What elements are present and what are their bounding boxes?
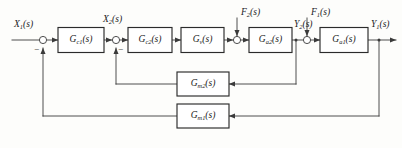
summing-junction-f2: [233, 36, 240, 43]
block-label-ga2: Ga2(s): [249, 35, 292, 45]
tap-dot-y2: [295, 39, 298, 42]
signal-label-y2: Y2(s): [294, 20, 313, 30]
diagram-vector-layer: [0, 0, 402, 148]
summing-junction-inner: [112, 36, 119, 43]
block-label-gm2: Gm2(s): [177, 79, 229, 89]
signal-label-x2: X2(s): [103, 15, 122, 25]
block-label-gc1: Gc1(s): [58, 35, 104, 45]
summing-junction-f1: [303, 36, 310, 43]
signal-label-y1: Y1(s): [371, 20, 390, 30]
tap-dot-y1: [378, 39, 381, 42]
block-label-ga1: Ga1(s): [320, 35, 368, 45]
signal-label-f1: F1(s): [311, 8, 330, 18]
sign-outer-feedback-negative: −: [34, 45, 39, 54]
block-label-gc2: Gc2(s): [128, 35, 172, 45]
summing-junction-outer: [39, 36, 46, 43]
signal-label-x1: X1(s): [14, 20, 33, 30]
block-label-gv: Gv(s): [181, 35, 224, 45]
signal-label-f2: F2(s): [241, 8, 260, 18]
sign-inner-feedback-negative: −: [118, 45, 123, 54]
block-diagram-canvas: Gc1(s) Gc2(s) Gv(s) Ga2(s) Ga1(s) Gm2(s)…: [0, 0, 402, 148]
block-label-gm1: Gm1(s): [177, 111, 229, 121]
